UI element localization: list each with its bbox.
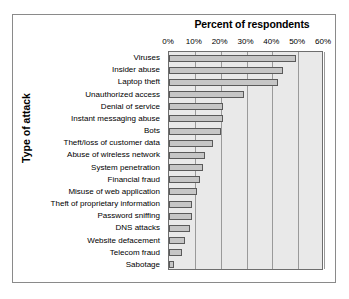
bar-row: [169, 174, 324, 186]
bar-row: [169, 247, 324, 259]
bar: [169, 55, 296, 62]
bar-row: [169, 101, 324, 113]
x-tick-label: 30%: [237, 37, 253, 46]
y-tick-label: Abuse of wireless network: [67, 150, 160, 159]
bar: [169, 152, 205, 159]
bar: [169, 79, 278, 86]
bar-row: [169, 259, 324, 271]
bar-row: [169, 113, 324, 125]
bar-row: [169, 76, 324, 88]
x-tick-label: 20%: [212, 37, 228, 46]
bar-row: [169, 222, 324, 234]
bar: [169, 128, 221, 135]
bar: [169, 164, 203, 171]
y-tick-label: Bots: [144, 126, 160, 135]
y-tick-label: Telecom fraud: [110, 247, 160, 256]
x-tick-label: 10%: [186, 37, 202, 46]
x-tick-label: 0%: [162, 37, 174, 46]
y-tick-label: Viruses: [133, 53, 160, 62]
y-tick-label: System penetration: [91, 162, 160, 171]
y-tick-label: Theft of proprietary information: [51, 199, 160, 208]
bar: [169, 225, 190, 232]
chart-title: Percent of respondents: [168, 18, 336, 30]
y-tick-label: Insider abuse: [112, 65, 160, 74]
bar: [169, 140, 213, 147]
x-tick-label: 40%: [263, 37, 279, 46]
bar: [169, 103, 223, 110]
bar: [169, 261, 174, 268]
y-tick-label: Theft/loss of customer data: [64, 138, 161, 147]
y-tick-label: Sabotage: [126, 259, 160, 268]
bar-row: [169, 52, 324, 64]
bar: [169, 237, 185, 244]
x-tick-label: 50%: [289, 37, 305, 46]
bar: [169, 67, 283, 74]
bar: [169, 115, 223, 122]
bar-row: [169, 198, 324, 210]
bar: [169, 176, 200, 183]
x-axis-tick-labels: 0%10%20%30%40%50%60%: [13, 37, 337, 50]
y-tick-label: Unauthorized access: [85, 89, 160, 98]
y-tick-label: Website defacement: [87, 235, 160, 244]
bar: [169, 201, 192, 208]
bar-row: [169, 125, 324, 137]
bar-row: [169, 210, 324, 222]
y-tick-label: Laptop theft: [118, 77, 160, 86]
y-tick-label: Misuse of web application: [68, 186, 160, 195]
bar-row: [169, 235, 324, 247]
bar-row: [169, 149, 324, 161]
chart-figure: Percent of respondents 0%10%20%30%40%50%…: [12, 14, 336, 283]
y-tick-label: Financial fraud: [108, 174, 160, 183]
bar: [169, 213, 192, 220]
plot-area: [168, 51, 323, 270]
bar-row: [169, 64, 324, 76]
bar: [169, 188, 197, 195]
bar-row: [169, 89, 324, 101]
bar-row: [169, 162, 324, 174]
bar: [169, 249, 182, 256]
y-tick-label: DNS attacks: [116, 223, 160, 232]
y-axis-tick-labels: VirusesInsider abuseLaptop theftUnauthor…: [13, 51, 164, 270]
bar-row: [169, 137, 324, 149]
y-tick-label: Denial of service: [101, 101, 160, 110]
y-tick-label: Instant messaging abuse: [71, 113, 160, 122]
gridline-60pct: [324, 52, 325, 269]
x-tick-label: 60%: [315, 37, 331, 46]
bar: [169, 91, 244, 98]
y-tick-label: Password sniffing: [97, 211, 160, 220]
bar-row: [169, 186, 324, 198]
